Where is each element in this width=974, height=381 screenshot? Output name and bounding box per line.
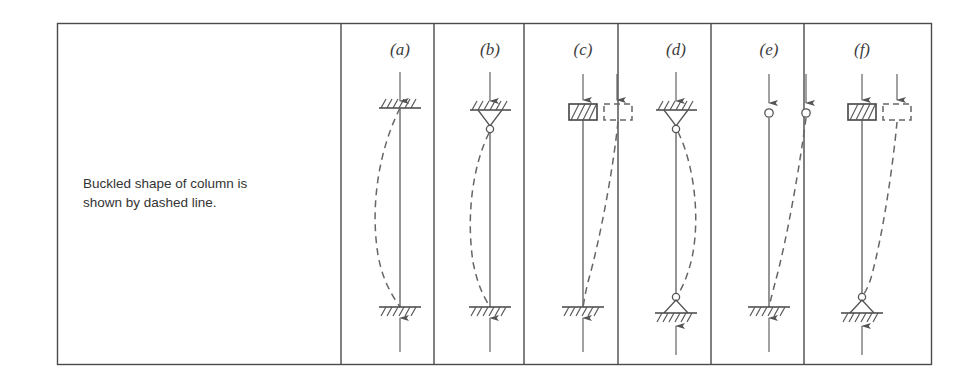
panel-d-top-support-pinned [656, 101, 697, 133]
panel-e: (e) [748, 40, 810, 352]
panel-a-buckled-shape [375, 108, 400, 307]
panel-b: (b) [469, 40, 511, 352]
panel-f-buckled-shape [862, 122, 897, 297]
figure-canvas: Buckled shape of column is shown by dash… [0, 0, 974, 381]
panel-c: (c) [562, 40, 632, 352]
panel-d-top-pin [672, 125, 679, 132]
panel-f-guided-block-displaced [883, 104, 911, 120]
caption-line-2: shown by dashed line. [83, 195, 217, 210]
panel-b-top-pin [486, 125, 493, 132]
panel-d-label: (d) [666, 40, 686, 59]
figure-frame [58, 24, 932, 365]
panel-d-bottom-support-pinned [655, 293, 697, 322]
panel-f-bottom-support-pinned [841, 293, 883, 322]
panel-a-bottom-support-fixed [379, 307, 421, 316]
panel-b-top-support-pinned [470, 101, 511, 133]
panel-e-buckled-shape [769, 118, 806, 307]
panel-e-label: (e) [760, 40, 779, 59]
panel-c-buckled-shape [583, 122, 618, 307]
panel-a-label: (a) [390, 40, 410, 59]
caption-line-1: Buckled shape of column is [83, 176, 248, 191]
panel-f: (f) [841, 40, 911, 355]
panel-d-buckled-shape [676, 132, 696, 297]
panel-c-bottom-support-fixed [562, 307, 604, 316]
panel-e-free-top-pin-displaced [802, 109, 810, 117]
panel-b-label: (b) [480, 40, 500, 59]
panel-b-buckled-shape [470, 133, 490, 307]
panel-dividers [341, 24, 804, 365]
panel-e-bottom-support-fixed [748, 307, 790, 316]
panel-c-label: (c) [574, 40, 593, 59]
panel-b-bottom-support-fixed [469, 307, 511, 316]
panel-f-guided-block [848, 104, 876, 120]
panel-a: (a) [375, 40, 421, 352]
caption-panel: Buckled shape of column is shown by dash… [83, 176, 248, 210]
panel-c-guided-block [569, 104, 597, 120]
panel-f-label: (f) [854, 40, 870, 59]
panel-d: (d) [655, 40, 697, 355]
buckled-column-figure: Buckled shape of column is shown by dash… [0, 0, 974, 381]
panel-e-free-top-pin [765, 109, 773, 117]
